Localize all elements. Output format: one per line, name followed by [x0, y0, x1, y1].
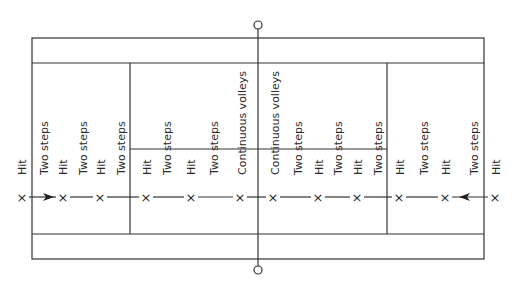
action-label: Hit	[16, 159, 29, 175]
player-position-marker: ×	[440, 190, 451, 205]
net-post-top-icon	[254, 21, 262, 29]
action-label: Two steps	[418, 121, 431, 176]
action-label: Two steps	[38, 121, 51, 176]
action-label: Two steps	[77, 121, 90, 176]
action-label: Continuous volleys	[236, 71, 249, 175]
player-position-marker: ×	[352, 190, 363, 205]
player-position-marker: ×	[186, 190, 197, 205]
player-position-marker: ×	[235, 190, 246, 205]
action-label: Hit	[313, 159, 326, 175]
action-label: Two steps	[208, 121, 221, 176]
action-label: Hit	[95, 159, 108, 175]
action-label: Hit	[141, 159, 154, 175]
action-labels: HitTwo stepsHitTwo stepsHitTwo stepsHitT…	[16, 71, 503, 176]
player-position-marker: ×	[394, 190, 405, 205]
action-label: Hit	[57, 159, 70, 175]
player-position-marker: ×	[17, 190, 28, 205]
player-position-marker: ×	[268, 190, 279, 205]
action-label: Two steps	[115, 121, 128, 176]
player-position-marker: ×	[313, 190, 324, 205]
player-position-marker: ×	[58, 190, 69, 205]
action-label: Two steps	[468, 121, 481, 176]
net	[254, 21, 262, 274]
action-label: Two steps	[332, 121, 345, 176]
player-position-marker: ×	[141, 190, 152, 205]
player-position-marker: ×	[95, 190, 106, 205]
action-label: Two steps	[372, 121, 385, 176]
action-label: Hit	[185, 159, 198, 175]
action-label: Two steps	[161, 121, 174, 176]
action-label: Hit	[394, 159, 407, 175]
action-label: Two steps	[292, 121, 305, 176]
player-position-marker: ×	[490, 190, 501, 205]
action-label: Hit	[352, 159, 365, 175]
action-label: Hit	[440, 159, 453, 175]
tennis-volley-drill-diagram: ×××××××××××× HitTwo stepsHitTwo stepsHit…	[0, 0, 519, 286]
action-label: Hit	[490, 159, 503, 175]
net-post-bottom-icon	[254, 266, 262, 274]
action-label: Continuous volleys	[269, 71, 282, 175]
